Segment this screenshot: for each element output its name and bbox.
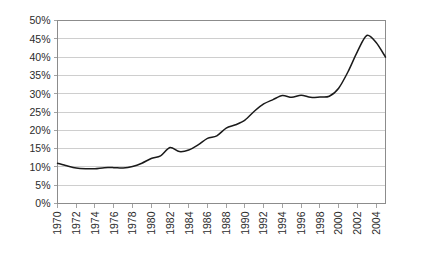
y-tick-label: 0% (35, 197, 50, 209)
x-tick-label: 1990 (239, 211, 251, 235)
y-tick-label: 45% (29, 33, 50, 45)
x-tick-label: 1970 (51, 211, 63, 235)
y-tick-label: 35% (29, 69, 50, 81)
y-axis-tick-labels: 0%5%10%15%20%25%30%35%40%45%50% (29, 14, 50, 209)
x-tick-label: 1998 (314, 211, 326, 235)
x-tick-label: 1988 (220, 211, 232, 235)
x-tick-label: 1996 (295, 211, 307, 235)
y-tick-label: 20% (29, 124, 50, 136)
x-tick-label: 1978 (126, 211, 138, 235)
chart-container: 0%5%10%15%20%25%30%35%40%45%50% 19701972… (0, 0, 427, 268)
x-tick-label: 1980 (145, 211, 157, 235)
y-tick-label: 10% (29, 161, 50, 173)
x-tick-label: 2002 (351, 211, 363, 235)
x-tick-label: 1984 (183, 211, 195, 235)
y-tick-label: 25% (29, 106, 50, 118)
y-tick-label: 50% (29, 14, 50, 26)
x-tick-label: 1992 (257, 211, 269, 235)
x-axis-tick-labels: 1970197219741976197819801982198419861988… (51, 211, 382, 235)
x-axis-ticks (54, 21, 377, 208)
gridlines (58, 21, 386, 186)
x-tick-label: 1972 (70, 211, 82, 235)
x-tick-label: 1976 (108, 211, 120, 235)
y-tick-label: 5% (35, 179, 50, 191)
x-tick-label: 1986 (201, 211, 213, 235)
x-tick-label: 1994 (276, 211, 288, 235)
x-tick-label: 1974 (89, 211, 101, 235)
x-tick-label: 1982 (164, 211, 176, 235)
line-chart: 0%5%10%15%20%25%30%35%40%45%50% 19701972… (0, 0, 427, 268)
y-tick-label: 15% (29, 142, 50, 154)
y-tick-label: 30% (29, 88, 50, 100)
x-tick-label: 2004 (370, 211, 382, 235)
y-tick-label: 40% (29, 51, 50, 63)
x-tick-label: 2000 (332, 211, 344, 235)
